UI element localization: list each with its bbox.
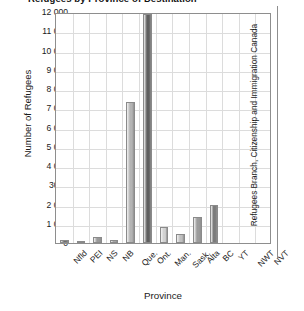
plot-area: [55, 13, 271, 244]
source-credit: Refugees Branch, Citizenship and Immigra…: [249, 0, 259, 270]
bar: [160, 227, 169, 243]
x-tick-label: PEI: [88, 248, 105, 265]
x-tick-label: NS: [104, 248, 119, 263]
bar: [77, 241, 86, 243]
bar: [193, 217, 202, 243]
bar: [60, 240, 69, 243]
x-tick-label: Ont.: [155, 248, 173, 266]
bar: [93, 237, 102, 243]
x-tick-label: Man.: [172, 248, 192, 268]
x-tick-label: Nfld: [72, 248, 90, 266]
x-tick-label: BC: [220, 248, 235, 263]
x-tick-label: NB: [121, 248, 136, 263]
bar-series: [56, 14, 270, 243]
right-divider: [277, 6, 278, 258]
bar: [126, 102, 135, 243]
x-tick-label: NVT: [272, 248, 291, 267]
bar: [176, 234, 185, 243]
x-axis-title: Province: [55, 290, 271, 301]
bar: [143, 14, 152, 243]
bar: [210, 205, 219, 243]
chart-root: Refugees by Province of Destination Numb…: [0, 0, 304, 311]
chart-title: Refugees by Province of Destination: [28, 0, 278, 5]
bar: [110, 240, 119, 243]
